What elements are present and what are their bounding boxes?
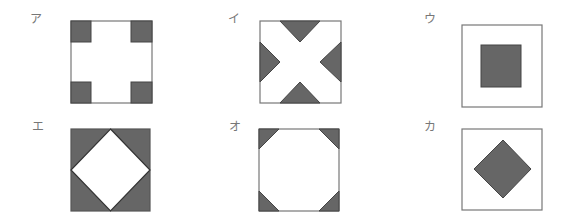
figure-label-e: エ [32, 121, 44, 133]
figure-label-ka: カ [424, 121, 436, 133]
figure-o-corner-triangles [258, 128, 342, 213]
figure-i-side-triangles [259, 20, 343, 105]
figure-e-white-diamond [70, 128, 153, 213]
figure-ka-filled-diamond [461, 128, 544, 212]
figure-label-o: オ [229, 121, 241, 133]
figure-label-a: ア [30, 13, 42, 25]
figure-label-u: ウ [424, 13, 436, 25]
figure-u-center-square [461, 24, 544, 109]
figure-a-corner-squares [70, 20, 154, 105]
figure-label-i: イ [228, 13, 240, 25]
